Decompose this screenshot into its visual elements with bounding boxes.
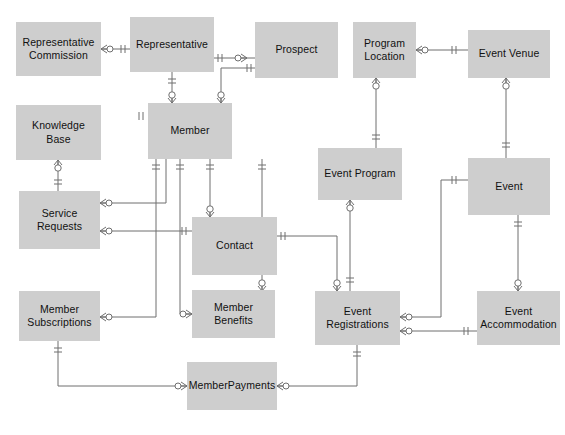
entity-label: Prospect	[275, 43, 317, 56]
er-diagram-canvas: Representative Commission Representative…	[0, 0, 565, 435]
entity-label: Representative	[136, 38, 208, 51]
edge-member-memberbenefits	[180, 159, 192, 314]
entity-label: Representative Commission	[22, 36, 94, 62]
edge-membersubscriptions-member	[100, 159, 156, 317]
entity-representative-commission[interactable]: Representative Commission	[16, 22, 101, 76]
edge-membersubscriptions-memberpayments	[58, 341, 187, 386]
entity-label: Knowledge Base	[19, 119, 98, 145]
entity-memberpayments[interactable]: MemberPayments	[187, 362, 277, 410]
entity-member-benefits[interactable]: Member Benefits	[192, 290, 275, 338]
entity-label: MemberPayments	[189, 379, 276, 392]
entity-label: Member Benefits	[195, 301, 272, 327]
entity-member-subscriptions[interactable]: Member Subscriptions	[19, 291, 100, 341]
entity-label: Contact	[216, 239, 253, 252]
entity-representative[interactable]: Representative	[130, 17, 214, 72]
entity-event-program[interactable]: Event Program	[318, 148, 402, 200]
entity-label: Program Location	[364, 37, 405, 63]
entity-program-location[interactable]: Program Location	[353, 22, 416, 78]
edge-eventregistrations-memberpayments	[277, 345, 357, 386]
edge-contact-eventregistrations	[277, 236, 337, 291]
entity-label: Service Requests	[22, 207, 97, 233]
entity-event[interactable]: Event	[468, 158, 550, 215]
entity-label: Member	[170, 124, 209, 137]
edge-event-eventregistrations	[400, 180, 468, 317]
entity-prospect[interactable]: Prospect	[255, 22, 338, 78]
entity-label: Event	[495, 180, 522, 193]
entity-contact[interactable]: Contact	[192, 217, 277, 275]
entity-member[interactable]: Member	[148, 103, 232, 159]
entity-label: Member Subscriptions	[27, 303, 91, 329]
entity-label: Event Program	[324, 167, 395, 180]
entity-event-registrations[interactable]: Event Registrations	[315, 291, 400, 345]
entity-label: Event Venue	[479, 47, 540, 60]
edge-prospect-member	[221, 68, 255, 103]
entity-event-venue[interactable]: Event Venue	[468, 30, 550, 78]
entity-label: Event Registrations	[326, 305, 389, 331]
entity-label: Event Accommodation	[480, 305, 557, 331]
entity-event-accommodation[interactable]: Event Accommodation	[477, 291, 560, 345]
entity-knowledge-base[interactable]: Knowledge Base	[16, 105, 101, 160]
entity-service-requests[interactable]: Service Requests	[19, 191, 100, 249]
